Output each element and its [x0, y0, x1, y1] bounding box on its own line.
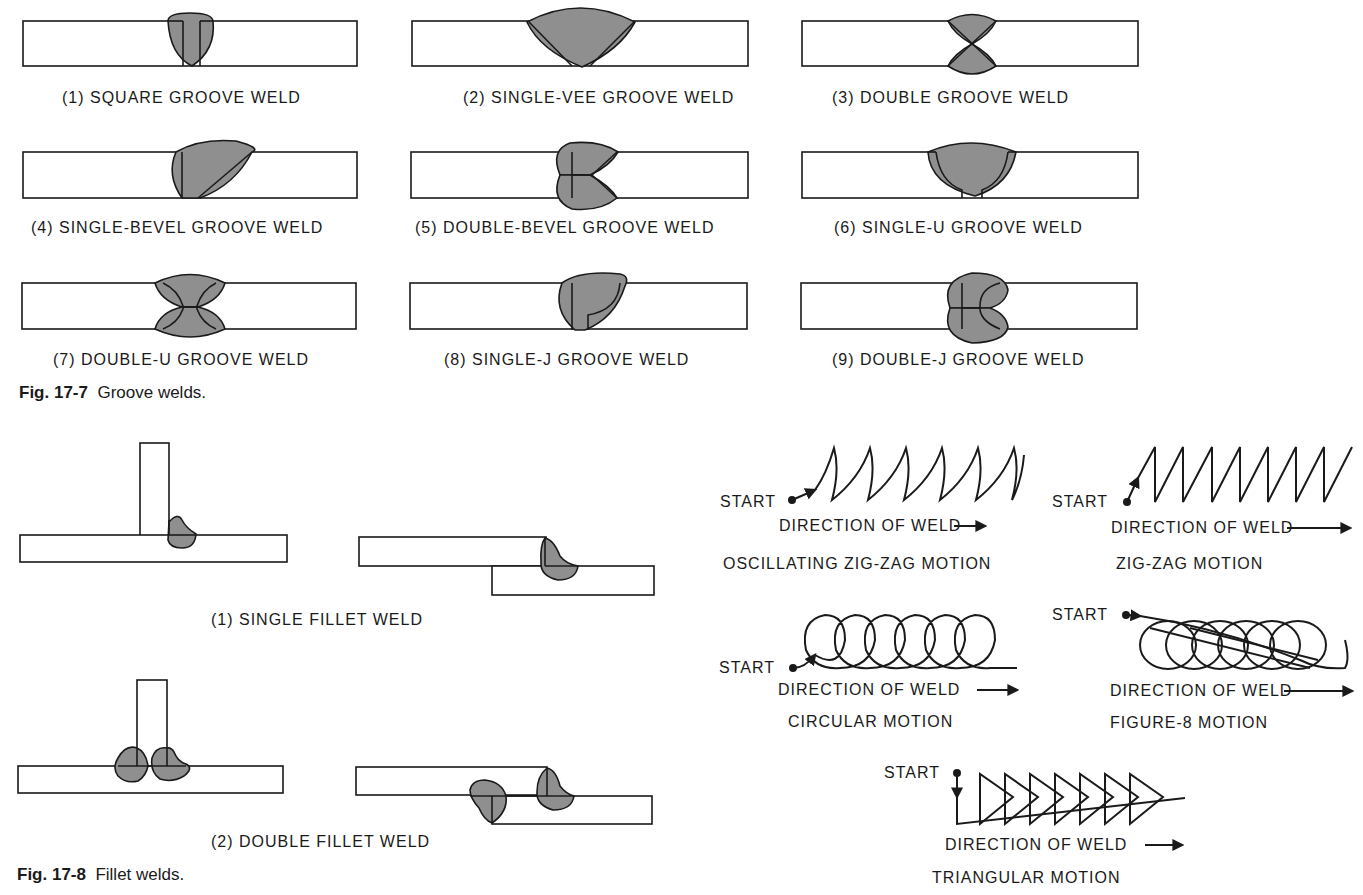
- direction-label: DIRECTION OF WELD: [945, 836, 1127, 854]
- direction-label: DIRECTION OF WELD: [779, 517, 961, 535]
- motion-label-zigzag: ZIG-ZAG MOTION: [1116, 555, 1263, 573]
- zigzag-motion-path: [1124, 447, 1352, 505]
- motion-label-triangular: TRIANGULAR MOTION: [932, 869, 1121, 887]
- start-label: START: [1052, 493, 1108, 511]
- start-label: START: [719, 659, 775, 677]
- double-fillet-lap-joint-drawing: [356, 767, 652, 824]
- weld-label-single-vee-groove: (2) SINGLE-VEE GROOVE WELD: [463, 89, 734, 107]
- start-label: START: [884, 764, 940, 782]
- single-fillet-lap-joint-drawing: [359, 537, 654, 595]
- figure-caption-fillet-welds: Fig. 17-8 Fillet welds.: [17, 865, 184, 885]
- single-u-groove-weld-drawing: [802, 143, 1138, 198]
- weld-label-double-j-groove: (9) DOUBLE-J GROOVE WELD: [832, 351, 1084, 369]
- weld-label-double-fillet: (2) DOUBLE FILLET WELD: [211, 833, 430, 851]
- weld-label-double-groove: (3) DOUBLE GROOVE WELD: [832, 89, 1069, 107]
- start-label: START: [1052, 606, 1108, 624]
- weld-label-single-fillet: (1) SINGLE FILLET WELD: [211, 611, 423, 629]
- weld-diagram-canvas: [0, 0, 1363, 895]
- motion-label-figure-8: FIGURE-8 MOTION: [1110, 714, 1268, 732]
- single-bevel-groove-weld-drawing: [23, 140, 357, 198]
- triangular-motion-path: [954, 770, 1185, 824]
- single-fillet-t-joint-drawing: [20, 443, 287, 562]
- weld-label-square-groove: (1) SQUARE GROOVE WELD: [62, 89, 301, 107]
- weld-label-single-u-groove: (6) SINGLE-U GROOVE WELD: [834, 219, 1083, 237]
- oscillating-zigzag-motion-path: [789, 448, 1024, 503]
- motion-label-circular: CIRCULAR MOTION: [788, 713, 953, 731]
- square-groove-weld-drawing: [23, 13, 357, 66]
- figure-caption-text: Fillet welds.: [95, 865, 184, 884]
- double-fillet-t-joint-drawing: [18, 680, 283, 793]
- figure-number: Fig. 17-8: [17, 865, 86, 884]
- motion-label-oscillating-zigzag: OSCILLATING ZIG-ZAG MOTION: [723, 555, 991, 573]
- start-label: START: [720, 493, 776, 511]
- direction-label: DIRECTION OF WELD: [1111, 519, 1293, 537]
- direction-label: DIRECTION OF WELD: [778, 681, 960, 699]
- double-groove-weld-drawing: [802, 15, 1138, 75]
- circular-motion-path: [790, 615, 1017, 671]
- figure-caption-groove-welds: Fig. 17-7 Groove welds.: [19, 383, 206, 403]
- figure-number: Fig. 17-7: [19, 383, 88, 402]
- weld-label-single-bevel-groove: (4) SINGLE-BEVEL GROOVE WELD: [31, 219, 323, 237]
- weld-label-single-j-groove: (8) SINGLE-J GROOVE WELD: [444, 351, 689, 369]
- double-bevel-groove-weld-drawing: [411, 142, 748, 209]
- weld-label-double-u-groove: (7) DOUBLE-U GROOVE WELD: [53, 351, 309, 369]
- direction-label: DIRECTION OF WELD: [1110, 682, 1292, 700]
- double-j-groove-weld-drawing: [801, 273, 1137, 343]
- double-u-groove-weld-drawing: [22, 275, 356, 338]
- weld-label-double-bevel-groove: (5) DOUBLE-BEVEL GROOVE WELD: [415, 219, 714, 237]
- single-j-groove-weld-drawing: [410, 273, 747, 330]
- figure-caption-text: Groove welds.: [97, 383, 206, 402]
- single-vee-groove-weld-drawing: [412, 8, 748, 67]
- figure-8-motion-path: [1123, 612, 1348, 669]
